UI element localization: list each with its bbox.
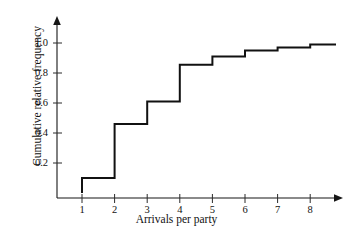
y-axis-arrow-icon (53, 16, 61, 25)
x-axis-title: Arrivals per party (0, 213, 353, 225)
cumulative-frequency-chart: 0.2 0.4 0.6 0.8 1.0 1 2 3 4 5 6 7 8 Arri… (0, 0, 353, 240)
ecdf-step-line (82, 45, 336, 194)
x-axis-arrow-icon (334, 194, 343, 202)
y-axis-title: Cumulative relative frequency (31, 21, 43, 171)
y-axis-title-container: Cumulative relative frequency (18, 38, 32, 188)
